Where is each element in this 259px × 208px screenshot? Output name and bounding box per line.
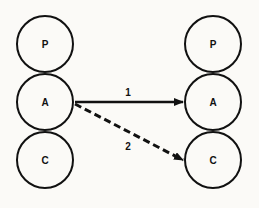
node-label: P bbox=[42, 39, 49, 50]
diagram-canvas: P A C P A C 1 2 bbox=[0, 0, 259, 208]
arrow-label: 2 bbox=[125, 141, 131, 152]
node-label: P bbox=[210, 39, 217, 50]
left-node-c: C bbox=[17, 132, 73, 188]
right-node-p: P bbox=[185, 16, 241, 72]
arrow-2-dashed: 2 bbox=[75, 104, 183, 160]
right-node-c: C bbox=[185, 132, 241, 188]
right-column: P A C bbox=[185, 16, 241, 188]
node-label: C bbox=[209, 155, 216, 166]
arrow-label: 1 bbox=[125, 87, 131, 98]
arrow-1-solid: 1 bbox=[75, 87, 183, 102]
left-column: P A C bbox=[17, 16, 73, 188]
node-label: A bbox=[209, 97, 216, 108]
left-node-p: P bbox=[17, 16, 73, 72]
node-label: A bbox=[41, 97, 48, 108]
right-node-a: A bbox=[185, 74, 241, 130]
node-label: C bbox=[41, 155, 48, 166]
left-node-a: A bbox=[17, 74, 73, 130]
